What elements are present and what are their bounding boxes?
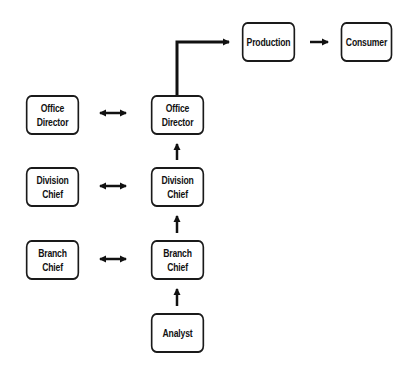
node-label: Consumer [346,35,387,49]
node-branch-chief-left: Branch Chief [26,240,79,280]
node-label: Office Director [152,101,202,129]
node-label: Analyst [163,326,193,340]
node-label: Branch Chief [38,246,67,274]
node-division-chief-left: Division Chief [26,167,79,207]
arrow-office-director-to-production [177,42,229,95]
node-consumer: Consumer [341,22,393,62]
node-branch-chief-right: Branch Chief [151,240,204,280]
node-label: Production [247,35,291,49]
node-production: Production [242,22,295,62]
node-label: Office Director [27,101,77,129]
node-label: Division Chief [161,173,193,201]
node-analyst: Analyst [151,313,204,353]
node-label: Branch Chief [163,246,192,274]
node-division-chief-right: Division Chief [151,167,204,207]
node-office-director-right: Office Director [151,95,204,135]
node-label: Division Chief [36,173,68,201]
node-office-director-left: Office Director [26,95,79,135]
